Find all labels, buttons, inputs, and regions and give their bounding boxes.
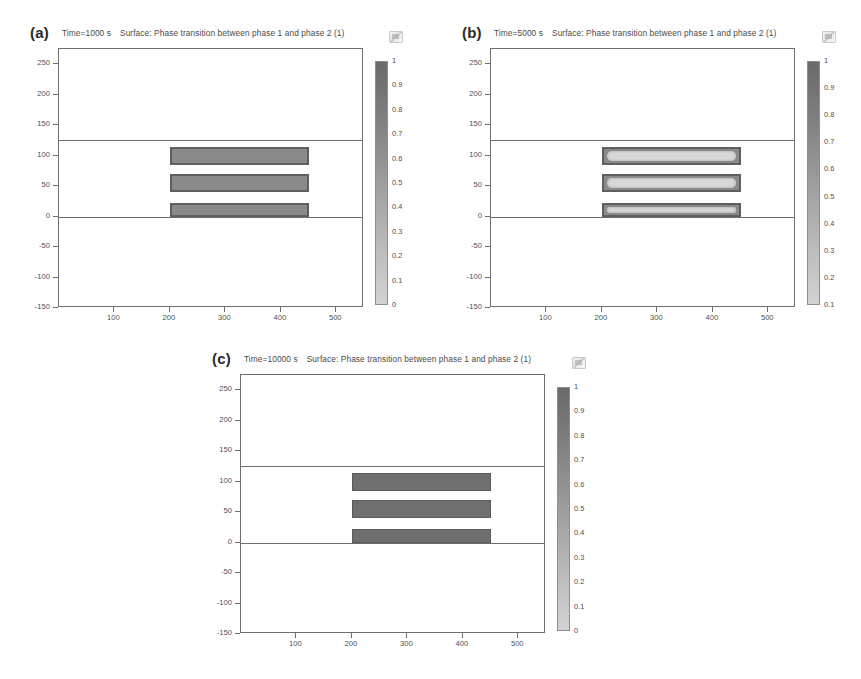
y-axis-tick-label: 100 — [198, 476, 232, 485]
colorbar-tick-label: 0.1 — [824, 300, 834, 309]
y-axis-tick-label: 150 — [16, 119, 50, 128]
y-axis-tick-label: 150 — [448, 119, 482, 128]
x-axis-tick — [517, 633, 518, 638]
colorbar-tick-label: 0.4 — [824, 219, 834, 228]
y-axis-tick — [53, 246, 58, 247]
y-axis-tick — [235, 450, 240, 451]
colorbar-tick-label: 0.5 — [392, 178, 402, 187]
colorbar[interactable] — [557, 387, 570, 631]
phase-bar — [602, 203, 741, 216]
colorbar-tick-label: 0.3 — [574, 553, 584, 562]
y-axis-tick — [53, 277, 58, 278]
x-axis-tick-label: 500 — [315, 313, 355, 322]
phase-bar — [352, 500, 491, 518]
plot-frame — [490, 48, 795, 307]
y-axis-tick-label: 0 — [448, 211, 482, 220]
y-axis-tick-label: 150 — [198, 445, 232, 454]
phase-bar — [352, 529, 491, 542]
x-axis-tick-label: 400 — [442, 639, 482, 648]
y-axis-tick-label: -100 — [16, 272, 50, 281]
panel-letter: (b) — [462, 24, 482, 41]
plot-corner-icon[interactable] — [822, 31, 836, 43]
y-axis-tick — [485, 307, 490, 308]
x-axis-tick — [351, 633, 352, 638]
x-axis-tick — [656, 307, 657, 312]
x-axis-tick-label: 200 — [331, 639, 371, 648]
y-axis-tick — [53, 63, 58, 64]
y-axis-tick-label: 0 — [16, 211, 50, 220]
y-axis-tick-label: 200 — [198, 415, 232, 424]
x-axis-tick — [601, 307, 602, 312]
x-axis-tick — [169, 307, 170, 312]
x-axis-tick-label: 200 — [581, 313, 621, 322]
colorbar-tick-label: 0.7 — [824, 137, 834, 146]
y-axis-tick-label: 200 — [16, 89, 50, 98]
colorbar[interactable] — [375, 61, 388, 305]
y-axis-tick — [53, 216, 58, 217]
plot-corner-icon[interactable] — [572, 357, 586, 369]
phase-bar-core — [607, 178, 736, 188]
x-axis-tick — [406, 633, 407, 638]
y-axis-tick-label: 250 — [448, 58, 482, 67]
y-axis-tick — [485, 277, 490, 278]
x-axis-tick-label: 200 — [149, 313, 189, 322]
colorbar-tick-label: 0.3 — [824, 246, 834, 255]
y-axis-tick-label: -150 — [448, 302, 482, 311]
interface-line — [59, 140, 362, 141]
y-axis-tick-label: 100 — [448, 150, 482, 159]
interface-line — [491, 140, 794, 141]
y-axis-tick-label: 50 — [198, 506, 232, 515]
panel-letter: (a) — [30, 24, 49, 41]
x-axis-tick-label: 100 — [525, 313, 565, 322]
x-axis-tick-label: 300 — [386, 639, 426, 648]
x-axis-tick-label: 100 — [275, 639, 315, 648]
panel-letter: (c) — [212, 350, 231, 367]
x-axis-tick-label: 400 — [260, 313, 300, 322]
x-axis-tick — [113, 307, 114, 312]
y-axis-tick — [485, 63, 490, 64]
plot-frame — [58, 48, 363, 307]
phase-bar-core — [607, 207, 736, 212]
colorbar-tick-label: 0.7 — [392, 129, 402, 138]
x-axis-tick-label: 100 — [93, 313, 133, 322]
colorbar-tick-label: 0.8 — [824, 110, 834, 119]
x-axis-tick — [462, 633, 463, 638]
colorbar-tick-label: 0.8 — [392, 105, 402, 114]
plot-area[interactable] — [491, 49, 794, 306]
phase-bar — [170, 174, 309, 192]
y-axis-tick — [53, 307, 58, 308]
y-axis-tick — [485, 246, 490, 247]
x-axis-tick — [712, 307, 713, 312]
colorbar-tick-label: 0.1 — [392, 276, 402, 285]
colorbar-tick-label: 0.9 — [392, 80, 402, 89]
colorbar-tick-label: 0.5 — [574, 504, 584, 513]
panel-surface-label: Surface: Phase transition between phase … — [120, 28, 344, 38]
x-axis-tick-label: 500 — [497, 639, 537, 648]
x-axis-tick — [335, 307, 336, 312]
x-axis-tick-label: 300 — [636, 313, 676, 322]
colorbar-tick-label: 0.2 — [392, 251, 402, 260]
colorbar-tick-label: 0.2 — [824, 273, 834, 282]
interface-line — [241, 543, 544, 544]
colorbar-tick-label: 1 — [824, 56, 828, 65]
plot-area[interactable] — [241, 375, 544, 632]
panel-time-label: Time=5000 s — [494, 28, 543, 38]
y-axis-tick — [485, 185, 490, 186]
interface-line — [241, 466, 544, 467]
plot-area[interactable] — [59, 49, 362, 306]
panel-title: Time=5000 sSurface: Phase transition bet… — [494, 28, 776, 38]
y-axis-tick-label: 250 — [198, 384, 232, 393]
x-axis-tick-label: 300 — [204, 313, 244, 322]
y-axis-tick-label: 50 — [16, 180, 50, 189]
colorbar-tick-label: 0.9 — [824, 83, 834, 92]
colorbar-tick-label: 0.1 — [574, 602, 584, 611]
colorbar-tick-label: 0.4 — [574, 528, 584, 537]
plot-corner-icon[interactable] — [389, 31, 403, 43]
phase-bar-core — [607, 151, 736, 161]
x-axis-tick-label: 500 — [747, 313, 787, 322]
colorbar-tick-label: 0.6 — [824, 164, 834, 173]
phase-bar — [602, 147, 741, 165]
colorbar-tick-label: 0.4 — [392, 202, 402, 211]
colorbar[interactable] — [807, 61, 820, 305]
y-axis-tick-label: -150 — [16, 302, 50, 311]
